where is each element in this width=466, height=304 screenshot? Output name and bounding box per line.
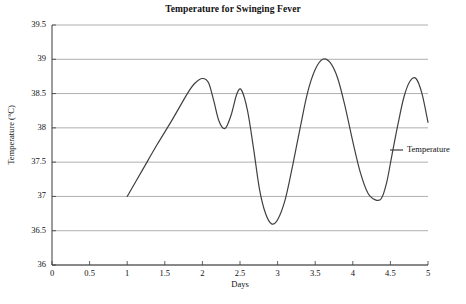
plot-area: [0, 0, 466, 304]
gridlines: [52, 25, 428, 265]
x-axis-tick-label: 2.5: [226, 269, 254, 278]
y-axis-tick-label: 38.5: [12, 89, 46, 98]
x-axis-tick-label: 1.5: [151, 269, 179, 278]
y-axis-tick-label: 36.5: [12, 226, 46, 235]
x-axis-tick-label: 3.5: [301, 269, 329, 278]
x-axis-tick-label: 1: [113, 269, 141, 278]
y-axis-tick-label: 37: [12, 191, 46, 200]
axis-lines: [52, 25, 428, 265]
x-axis-tick-label: 0.5: [76, 269, 104, 278]
chart-container: Temperature for Swinging Fever Temperatu…: [0, 0, 466, 304]
data-series-group: [127, 59, 428, 224]
x-axis-tick-label: 2: [188, 269, 216, 278]
legend-label-temperature: Temperature: [407, 144, 450, 154]
y-axis-tick-label: 39: [12, 54, 46, 63]
y-axis-ticks: [52, 25, 56, 265]
x-axis-tick-label: 4.5: [376, 269, 404, 278]
y-axis-tick-label: 37.5: [12, 157, 46, 166]
x-axis-tick-label: 5: [414, 269, 442, 278]
x-axis-tick-label: 4: [339, 269, 367, 278]
y-axis-tick-label: 39.5: [12, 20, 46, 29]
x-axis-tick-label: 0: [38, 269, 66, 278]
data-line-temperature: [127, 59, 428, 224]
y-axis-tick-label: 36: [12, 260, 46, 269]
x-axis-tick-label: 3: [264, 269, 292, 278]
x-axis-ticks: [52, 261, 428, 265]
y-axis-tick-label: 38: [12, 123, 46, 132]
